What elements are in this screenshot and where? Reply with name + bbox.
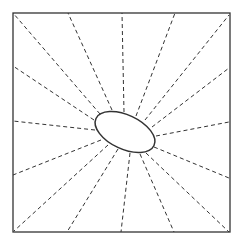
dashed-ray — [154, 147, 229, 178]
dashed-ray — [68, 13, 112, 110]
dashed-ray — [13, 66, 94, 120]
dashed-ray — [122, 13, 124, 112]
central-ellipse — [89, 103, 161, 161]
dashed-ray — [136, 13, 175, 116]
dashed-ray — [146, 153, 229, 232]
diagram-canvas — [0, 0, 243, 243]
dashed-ray — [67, 149, 118, 232]
dashed-ray — [13, 140, 101, 175]
dashed-ray — [13, 13, 100, 114]
dashed-ray — [13, 121, 95, 130]
dashed-ray — [121, 153, 130, 232]
dashed-ray — [156, 122, 229, 136]
dashed-ray — [140, 154, 174, 232]
dashed-ray — [145, 15, 229, 120]
